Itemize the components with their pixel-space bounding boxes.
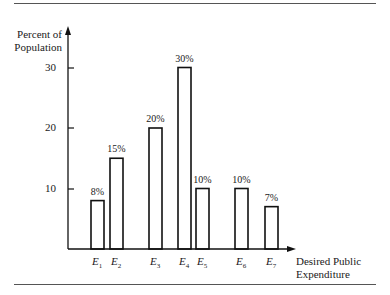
- value-label: 20%: [141, 113, 171, 124]
- bar-E4: [178, 68, 191, 250]
- y-axis-arrow-icon: [65, 26, 71, 35]
- bar-E1: [91, 201, 104, 249]
- value-label: 8%: [83, 186, 113, 197]
- bar-E5: [196, 189, 209, 250]
- value-label: 7%: [257, 192, 287, 203]
- x-category-label: E3: [150, 255, 160, 270]
- x-axis-label-line1: Desired Public: [296, 255, 361, 268]
- value-label: 10%: [188, 174, 218, 185]
- value-label: 10%: [227, 174, 257, 185]
- x-axis-label: Desired Public Expenditure: [296, 255, 361, 281]
- x-axis-label-line2: Expenditure: [296, 268, 361, 281]
- x-category-label: E1: [92, 255, 102, 270]
- bar-E7: [265, 207, 278, 249]
- x-category-label: E6: [236, 255, 246, 270]
- x-category-label: E4: [179, 255, 189, 270]
- x-axis-arrow-icon: [287, 246, 296, 252]
- x-category-label: E2: [111, 255, 121, 270]
- x-category-label: E7: [266, 255, 276, 270]
- value-label: 30%: [170, 53, 200, 64]
- bar-E2: [110, 158, 123, 249]
- bar-E3: [149, 128, 162, 249]
- x-category-label: E5: [197, 255, 207, 270]
- bar-chart: [0, 0, 390, 295]
- value-label: 15%: [102, 143, 132, 154]
- bar-E6: [235, 189, 248, 250]
